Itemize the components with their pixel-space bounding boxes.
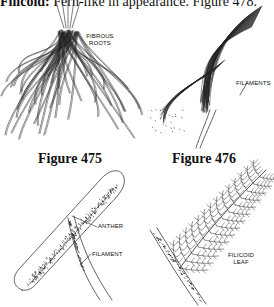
pinnule bbox=[268, 181, 271, 189]
stipple bbox=[180, 267, 181, 268]
pinnule bbox=[219, 237, 222, 245]
pinnule bbox=[238, 209, 241, 217]
stipple bbox=[189, 285, 190, 286]
pinna bbox=[173, 240, 180, 268]
pinna bbox=[179, 234, 186, 261]
pinnule bbox=[224, 237, 227, 245]
stipple bbox=[197, 293, 198, 294]
stipple bbox=[157, 238, 158, 239]
pinnule bbox=[197, 265, 200, 273]
pinnule bbox=[219, 244, 222, 252]
pinnule bbox=[182, 229, 190, 233]
pinnule bbox=[202, 215, 210, 219]
pinnule bbox=[254, 170, 262, 174]
stipple bbox=[200, 300, 201, 301]
pinnule bbox=[235, 223, 238, 231]
pinnule bbox=[172, 247, 180, 251]
stipple bbox=[175, 261, 176, 262]
stipple bbox=[191, 283, 192, 284]
stipple bbox=[173, 260, 174, 261]
pinnule bbox=[208, 251, 211, 259]
stipple bbox=[154, 233, 155, 234]
stipple bbox=[157, 237, 158, 238]
pinnule bbox=[188, 223, 196, 227]
label-filicoid-leaf: FILICOID LEAF bbox=[224, 252, 258, 266]
pinnule bbox=[209, 244, 212, 252]
pinnule bbox=[270, 174, 273, 182]
stipple bbox=[171, 257, 172, 258]
pinnule bbox=[186, 265, 189, 273]
stipple bbox=[165, 246, 166, 247]
stipple bbox=[199, 297, 200, 298]
stipple bbox=[187, 281, 188, 282]
pinnule bbox=[195, 216, 203, 220]
pinnule bbox=[214, 237, 217, 245]
pinna bbox=[235, 205, 255, 207]
pinnule bbox=[197, 258, 200, 266]
pinnule bbox=[264, 181, 267, 189]
pinna bbox=[235, 179, 242, 198]
stipple bbox=[168, 252, 169, 253]
pinnule bbox=[247, 202, 250, 210]
stipple bbox=[180, 271, 181, 272]
pinnule bbox=[257, 195, 260, 203]
stipple bbox=[172, 259, 173, 260]
pinnule bbox=[208, 258, 211, 266]
pinnule bbox=[184, 234, 192, 238]
label-line-2: LEAF bbox=[224, 259, 258, 266]
stipple bbox=[201, 301, 202, 302]
pinnule bbox=[221, 195, 229, 199]
pinnule bbox=[262, 188, 265, 196]
pinnule bbox=[259, 188, 262, 196]
pinnule bbox=[202, 258, 205, 266]
pinnule bbox=[273, 174, 274, 182]
stipple bbox=[166, 251, 167, 252]
pinnule bbox=[190, 228, 198, 232]
stipple bbox=[184, 278, 185, 279]
stipple bbox=[159, 242, 160, 243]
label-line-1: FILICOID bbox=[224, 252, 258, 259]
pinnule bbox=[220, 230, 223, 238]
stipple bbox=[183, 272, 184, 273]
pinnule bbox=[232, 216, 235, 224]
stipple bbox=[169, 254, 170, 255]
pinnule bbox=[225, 230, 228, 238]
pinnule bbox=[246, 209, 249, 217]
pinnule bbox=[243, 202, 246, 210]
pinna bbox=[198, 215, 205, 240]
pinna bbox=[186, 228, 193, 254]
stipple bbox=[165, 248, 166, 249]
pinna bbox=[241, 198, 260, 200]
pinnule bbox=[226, 223, 229, 231]
pinnule bbox=[170, 242, 178, 246]
stipple bbox=[158, 239, 159, 240]
pinnule bbox=[239, 176, 247, 180]
pinnule bbox=[233, 182, 241, 186]
pinna bbox=[192, 222, 199, 247]
stipple bbox=[182, 274, 183, 275]
stipple bbox=[172, 257, 173, 258]
stipple bbox=[184, 273, 185, 274]
pinnule bbox=[255, 188, 258, 196]
stipple bbox=[163, 246, 164, 247]
pinna bbox=[241, 172, 248, 191]
pinnule bbox=[202, 265, 205, 273]
stipple bbox=[191, 287, 192, 288]
stipple bbox=[170, 255, 171, 256]
stipple bbox=[173, 261, 174, 262]
stipple bbox=[161, 240, 162, 241]
pinnule bbox=[224, 204, 232, 208]
stipple bbox=[180, 269, 181, 270]
pinnule bbox=[203, 251, 206, 259]
pinnule bbox=[242, 209, 245, 217]
pinnule bbox=[231, 223, 234, 231]
stipple bbox=[158, 240, 159, 241]
pinnule bbox=[176, 235, 184, 239]
pinnule bbox=[191, 265, 194, 273]
pinna bbox=[205, 240, 230, 242]
pinnule bbox=[213, 251, 216, 259]
pinnule bbox=[201, 210, 209, 214]
pinna bbox=[192, 254, 218, 256]
stem-outline bbox=[150, 230, 198, 305]
stipple bbox=[162, 244, 163, 245]
